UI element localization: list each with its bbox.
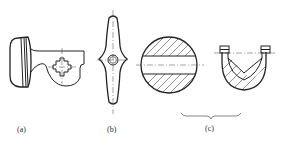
- panel-b-lever-drawing: [97, 10, 130, 114]
- panel-a-label: (a): [17, 125, 26, 134]
- panel-b-label: (b): [107, 125, 117, 134]
- panel-c-label: (c): [205, 124, 214, 133]
- panel-c-u-section: [214, 46, 276, 90]
- panel-c-circular-section: [136, 36, 205, 94]
- technical-drawing-figure: (a) (b): [0, 0, 290, 146]
- panel-a-handle-drawing: [10, 37, 84, 87]
- panel-c-brace: [181, 113, 241, 119]
